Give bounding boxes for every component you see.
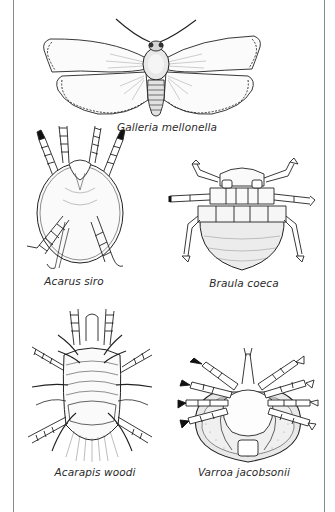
mite-icon <box>25 118 135 270</box>
frame-left-border <box>13 0 14 512</box>
caption-acarus-siro: Acarus siro <box>44 275 103 287</box>
frame-right-border <box>324 0 325 512</box>
illustration-plate: Galleria mellonella <box>0 0 335 512</box>
caption-braula-coeca: Braula coeca <box>209 277 278 289</box>
tracheal-mite-icon <box>22 305 162 463</box>
bee-louse-icon <box>170 158 315 273</box>
caption-varroa-jacobsonii: Varroa jacobsonii <box>198 466 290 478</box>
moth-icon <box>40 14 262 118</box>
varroa-mite-icon <box>176 340 321 465</box>
caption-acarapis-woodi: Acarapis woodi <box>55 466 136 478</box>
